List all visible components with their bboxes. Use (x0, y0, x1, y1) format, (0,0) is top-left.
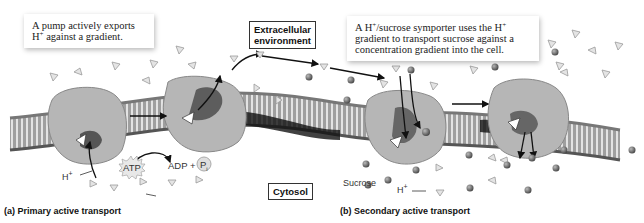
h-ion-label-secondary: H+ (397, 185, 408, 195)
h-ion-symbol: H (32, 31, 40, 42)
secondary-transport-callout: A H+/sucrose symporter uses the H+ gradi… (347, 16, 539, 61)
callout-line: A pump actively exports (32, 20, 146, 31)
caption-secondary-transport: (b) Secondary active transport (340, 206, 470, 216)
proton-pump-closed (48, 87, 126, 164)
callout-line: concentration gradient into the cell. (355, 44, 531, 55)
superscript-plus: + (404, 183, 408, 190)
caption-primary-transport: (a) Primary active transport (4, 206, 121, 216)
callout-line: against a gradient. (44, 31, 123, 42)
proton-pump-open (163, 76, 246, 152)
h-ion-label-primary: H+ (62, 172, 73, 182)
superscript-plus: + (69, 170, 73, 177)
callout-text: /sucrose symporter uses the H (376, 22, 502, 33)
pi-label: Pi (200, 159, 208, 172)
extracellular-label: Extracellular environment (249, 21, 316, 49)
cytosol-label: Cytosol (268, 183, 313, 200)
atp-label: ATP (123, 162, 141, 173)
transport-diagram: A pump actively exports H+ against a gra… (0, 0, 644, 223)
callout-text: A H (355, 22, 372, 33)
extracellular-line1: Extracellular (254, 24, 311, 35)
adp-label: ADP + (168, 160, 196, 171)
callout-line: gradient to transport sucrose against a (355, 33, 531, 44)
primary-transport-callout: A pump actively exports H+ against a gra… (24, 14, 154, 48)
pi-subscript: i (206, 166, 207, 172)
superscript-plus: + (502, 21, 506, 29)
sucrose-label: Sucrose (343, 178, 376, 188)
symporter-closed (488, 79, 569, 158)
extracellular-line2: environment (254, 35, 311, 46)
